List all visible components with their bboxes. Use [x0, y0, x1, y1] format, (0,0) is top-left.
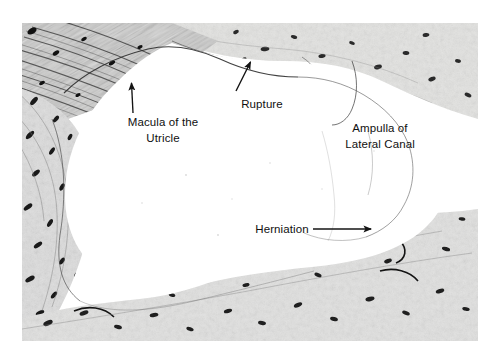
ampulla-label-line-1: Ampulla of	[332, 120, 428, 136]
macula-label: Macula of the Utricle	[110, 114, 216, 146]
micrograph-image	[22, 23, 478, 341]
ampulla-label: Ampulla of Lateral Canal	[332, 120, 428, 152]
macula-label-line-2: Utricle	[110, 130, 216, 146]
micrograph-figure: Macula of the Utricle Rupture Ampulla of…	[0, 0, 499, 361]
rupture-label: Rupture	[231, 96, 293, 112]
herniation-label: Herniation	[251, 221, 313, 237]
macula-label-line-1: Macula of the	[110, 114, 216, 130]
herniation-label-line-1: Herniation	[251, 221, 313, 237]
rupture-label-line-1: Rupture	[231, 96, 293, 112]
ampulla-label-line-2: Lateral Canal	[332, 136, 428, 152]
